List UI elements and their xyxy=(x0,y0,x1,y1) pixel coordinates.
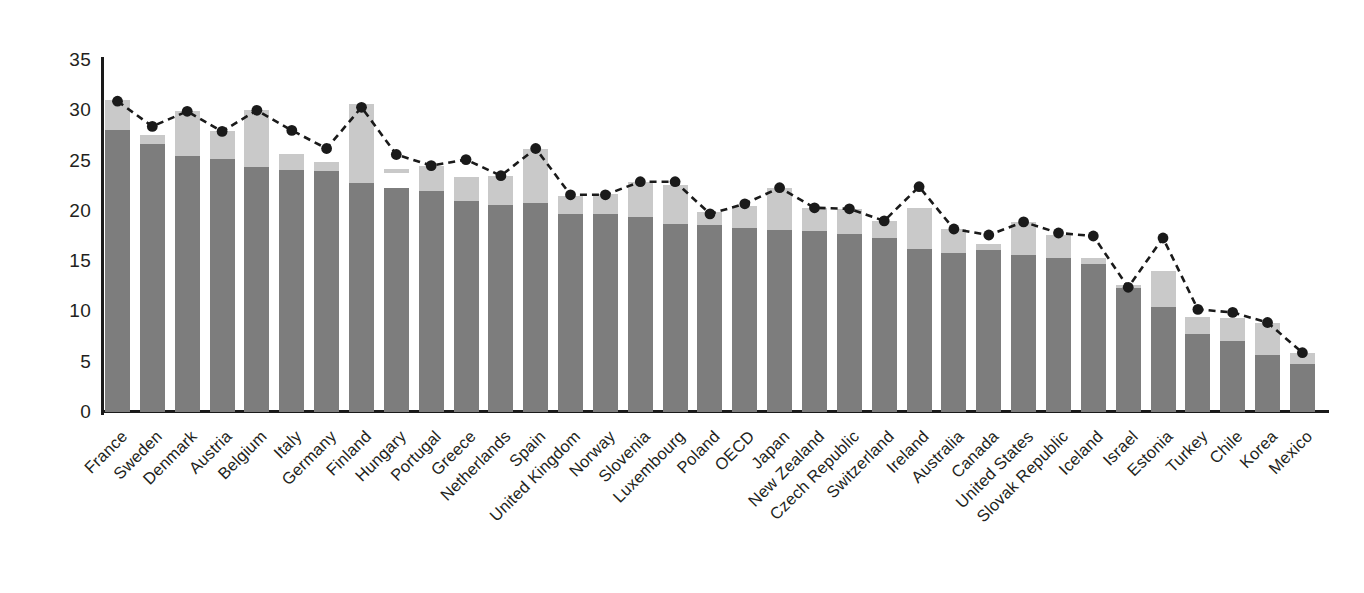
chart-container: 05101520253035 FranceSwedenDenmarkAustri… xyxy=(0,0,1364,593)
x-axis-category-labels: FranceSwedenDenmarkAustriaBelgiumItalyGe… xyxy=(0,0,1364,593)
